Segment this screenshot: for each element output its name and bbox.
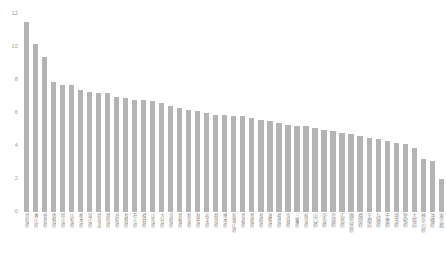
- x-label-slot: 神奈川県: [419, 213, 428, 263]
- bar-slot[interactable]: [175, 14, 184, 212]
- bar[interactable]: [60, 85, 65, 212]
- bar[interactable]: [439, 179, 444, 212]
- bar-slot[interactable]: [238, 14, 247, 212]
- bar-slot[interactable]: [112, 14, 121, 212]
- bar[interactable]: [159, 103, 164, 212]
- bar-slot[interactable]: [31, 14, 40, 212]
- bar[interactable]: [348, 134, 353, 212]
- bar[interactable]: [376, 139, 381, 212]
- bar[interactable]: [285, 125, 290, 212]
- bar-slot[interactable]: [157, 14, 166, 212]
- bar[interactable]: [330, 131, 335, 212]
- bar[interactable]: [141, 100, 146, 212]
- bar[interactable]: [385, 141, 390, 212]
- bar[interactable]: [294, 126, 299, 212]
- bar[interactable]: [303, 126, 308, 212]
- bar-slot[interactable]: [419, 14, 428, 212]
- bar[interactable]: [177, 108, 182, 212]
- bar-slot[interactable]: [283, 14, 292, 212]
- bar-slot[interactable]: [130, 14, 139, 212]
- bar-slot[interactable]: [22, 14, 31, 212]
- bar-slot[interactable]: [49, 14, 58, 212]
- bar-slot[interactable]: [103, 14, 112, 212]
- bar[interactable]: [240, 116, 245, 212]
- bar-slot[interactable]: [256, 14, 265, 212]
- bar[interactable]: [339, 133, 344, 212]
- x-label-slot: 静岡県: [103, 213, 112, 263]
- bar[interactable]: [150, 101, 155, 212]
- bar[interactable]: [357, 136, 362, 212]
- bar-slot[interactable]: [229, 14, 238, 212]
- bar-slot[interactable]: [121, 14, 130, 212]
- bar-slot[interactable]: [292, 14, 301, 212]
- bar[interactable]: [421, 159, 426, 212]
- bar[interactable]: [186, 110, 191, 212]
- x-tick-label: 長野県: [123, 213, 128, 228]
- bar-slot[interactable]: [184, 14, 193, 212]
- bar-slot[interactable]: [301, 14, 310, 212]
- bar-slot[interactable]: [428, 14, 437, 212]
- x-tick-label: 福岡県: [358, 213, 363, 228]
- bar[interactable]: [312, 128, 317, 212]
- bar-slot[interactable]: [338, 14, 347, 212]
- bar-slot[interactable]: [139, 14, 148, 212]
- y-tick-label: 6: [15, 110, 18, 116]
- bar-slot[interactable]: [85, 14, 94, 212]
- bar-slot[interactable]: [94, 14, 103, 212]
- bar-slot[interactable]: [193, 14, 202, 212]
- bar-slot[interactable]: [347, 14, 356, 212]
- bar-slot[interactable]: [58, 14, 67, 212]
- bar[interactable]: [258, 120, 263, 212]
- bar[interactable]: [430, 161, 435, 212]
- bar[interactable]: [213, 115, 218, 212]
- bar[interactable]: [24, 22, 29, 212]
- bar-slot[interactable]: [311, 14, 320, 212]
- bar-slot[interactable]: [365, 14, 374, 212]
- bar[interactable]: [276, 123, 281, 212]
- bar[interactable]: [33, 44, 38, 212]
- bar[interactable]: [231, 116, 236, 212]
- bar-slot[interactable]: [220, 14, 229, 212]
- bar[interactable]: [367, 138, 372, 212]
- bar[interactable]: [78, 90, 83, 212]
- y-axis: 024681012: [0, 0, 22, 263]
- bar-slot[interactable]: [356, 14, 365, 212]
- bar-slot[interactable]: [148, 14, 157, 212]
- bar-slot[interactable]: [383, 14, 392, 212]
- bar[interactable]: [87, 92, 92, 212]
- bar[interactable]: [195, 111, 200, 212]
- bar[interactable]: [132, 100, 137, 212]
- bar-slot[interactable]: [265, 14, 274, 212]
- bar[interactable]: [249, 118, 254, 212]
- bar-slot[interactable]: [274, 14, 283, 212]
- bar[interactable]: [69, 85, 74, 212]
- bar-slot[interactable]: [329, 14, 338, 212]
- bar[interactable]: [222, 115, 227, 212]
- bar[interactable]: [42, 57, 47, 212]
- bar-slot[interactable]: [202, 14, 211, 212]
- bar-slot[interactable]: [401, 14, 410, 212]
- bar[interactable]: [51, 82, 56, 212]
- bar-slot[interactable]: [410, 14, 419, 212]
- bar[interactable]: [403, 144, 408, 212]
- bar-slot[interactable]: [247, 14, 256, 212]
- bar-slot[interactable]: [40, 14, 49, 212]
- bar-slot[interactable]: [211, 14, 220, 212]
- bar[interactable]: [105, 93, 110, 212]
- bar-slot[interactable]: [76, 14, 85, 212]
- bar-slot[interactable]: [437, 14, 446, 212]
- bar[interactable]: [114, 97, 119, 213]
- bar[interactable]: [394, 143, 399, 212]
- bar[interactable]: [96, 93, 101, 212]
- bar-slot[interactable]: [67, 14, 76, 212]
- bar[interactable]: [321, 130, 326, 213]
- bar[interactable]: [123, 98, 128, 212]
- bar-slot[interactable]: [374, 14, 383, 212]
- bar[interactable]: [204, 113, 209, 212]
- bar-slot[interactable]: [166, 14, 175, 212]
- bar[interactable]: [267, 121, 272, 212]
- bar-slot[interactable]: [320, 14, 329, 212]
- bar[interactable]: [412, 148, 417, 212]
- bar[interactable]: [168, 106, 173, 212]
- bar-slot[interactable]: [392, 14, 401, 212]
